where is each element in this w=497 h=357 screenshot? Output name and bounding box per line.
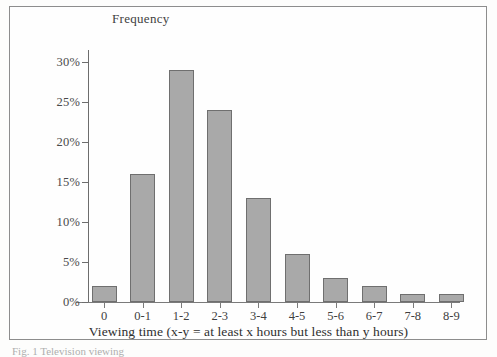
x-axis-title: Viewing time (x-y = at least x hours but… xyxy=(0,324,497,339)
bar-1-2 xyxy=(169,70,194,302)
y-tick xyxy=(82,262,88,263)
x-tick xyxy=(336,303,337,308)
bar-2-3 xyxy=(207,110,232,302)
x-tick-label: 7-8 xyxy=(393,309,433,323)
x-tick-label: 4-5 xyxy=(277,309,317,323)
x-tick xyxy=(297,303,298,308)
bar-0-1 xyxy=(130,174,155,302)
bar-7-8 xyxy=(400,294,425,302)
x-axis-line xyxy=(76,302,460,303)
x-tick-label: 5-6 xyxy=(316,309,356,323)
x-tick xyxy=(104,303,105,308)
y-tick xyxy=(82,102,88,103)
x-tick xyxy=(451,303,452,308)
x-tick-label: 0 xyxy=(84,309,124,323)
bar-3-4 xyxy=(246,198,271,302)
y-tick xyxy=(82,142,88,143)
x-tick-label: 6-7 xyxy=(354,309,394,323)
y-axis-line xyxy=(88,50,89,303)
caption-fragment: Fig. 1 Television viewing xyxy=(12,346,124,357)
bar-0 xyxy=(92,286,117,302)
x-tick xyxy=(181,303,182,308)
y-tick-label: 20% xyxy=(38,136,80,148)
bar-8-9 xyxy=(439,294,464,302)
x-tick xyxy=(413,303,414,308)
bar-4-5 xyxy=(285,254,310,302)
x-tick-label: 1-2 xyxy=(161,309,201,323)
x-tick-label: 3-4 xyxy=(238,309,278,323)
y-tick xyxy=(82,222,88,223)
figure-page: Frequency 0%5%10%15%20%25%30% 00-11-22-3… xyxy=(0,0,497,357)
x-tick-label: 8-9 xyxy=(431,309,471,323)
x-tick xyxy=(143,303,144,308)
y-axis-title: Frequency xyxy=(112,12,170,26)
x-tick-label: 0-1 xyxy=(123,309,163,323)
y-tick-label: 25% xyxy=(38,96,80,108)
bar-6-7 xyxy=(362,286,387,302)
y-tick-label: 10% xyxy=(38,216,80,228)
y-tick xyxy=(82,182,88,183)
y-axis-labels: 0%5%10%15%20%25%30% xyxy=(30,0,80,357)
x-tick xyxy=(374,303,375,308)
x-tick xyxy=(220,303,221,308)
bar-5-6 xyxy=(323,278,348,302)
x-tick-label: 2-3 xyxy=(200,309,240,323)
y-tick xyxy=(82,62,88,63)
y-tick xyxy=(82,302,88,303)
y-tick-label: 5% xyxy=(38,256,80,268)
y-tick-label: 15% xyxy=(38,176,80,188)
y-tick-label: 0% xyxy=(38,296,80,308)
x-tick xyxy=(258,303,259,308)
y-tick-label: 30% xyxy=(38,56,80,68)
